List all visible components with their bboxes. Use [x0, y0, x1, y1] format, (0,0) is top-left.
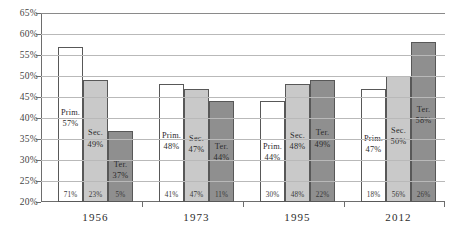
y-tick-mark — [36, 76, 41, 77]
gridline — [41, 181, 445, 182]
x-tick-mark — [344, 202, 345, 207]
bar-level-text: Prim. — [59, 107, 82, 118]
bar-value-label: Sec.50% — [387, 125, 410, 147]
y-tick-label: 45% — [2, 92, 38, 102]
bar-percent-text: 47% — [185, 144, 208, 155]
x-tick-mark — [444, 202, 445, 207]
y-tick-mark — [36, 118, 41, 119]
y-tick-label: 35% — [2, 134, 38, 144]
bar-share-label: 18% — [362, 191, 385, 199]
bar-share-label: 47% — [185, 191, 208, 199]
y-tick-mark — [36, 139, 41, 140]
bar-share-label: 71% — [59, 191, 82, 199]
bar-share-label: 22% — [311, 191, 334, 199]
y-tick-mark — [36, 202, 41, 203]
y-tick-label: 60% — [2, 29, 38, 39]
bar-level-text: Ter. — [210, 141, 233, 152]
bar-value-label: Prim.48% — [160, 130, 183, 152]
bar-share-label: 11% — [210, 191, 233, 199]
y-tick-mark — [36, 181, 41, 182]
bar-percent-text: 44% — [210, 152, 233, 163]
y-tick-mark — [36, 55, 41, 56]
x-group-label-1973: 1973 — [183, 211, 209, 223]
bar-1995-sec[interactable]: Sec.48%48% — [285, 84, 310, 202]
gridline — [41, 55, 445, 56]
y-tick-label: 50% — [2, 71, 38, 81]
x-group-label-2012: 2012 — [385, 211, 411, 223]
x-axis: 1956197319952012 — [41, 202, 445, 236]
x-group-label-1995: 1995 — [284, 211, 310, 223]
gridline — [41, 76, 445, 77]
y-tick-mark — [36, 160, 41, 161]
y-tick-mark — [36, 34, 41, 35]
y-tick-label: 20% — [2, 197, 38, 207]
bar-percent-text: 48% — [286, 141, 309, 152]
bar-level-text: Ter. — [412, 104, 435, 115]
bar-level-text: Prim. — [261, 141, 284, 152]
y-tick-label: 65% — [2, 8, 38, 18]
bar-share-label: 48% — [286, 191, 309, 199]
bar-1973-sec[interactable]: Sec.47%47% — [184, 89, 209, 202]
bar-level-text: Ter. — [311, 127, 334, 138]
gridline — [41, 13, 445, 14]
gridline — [41, 97, 445, 98]
bar-value-label: Ter.58% — [412, 104, 435, 126]
bar-value-label: Sec.48% — [286, 130, 309, 152]
bar-1956-sec[interactable]: Sec.49%23% — [83, 80, 108, 202]
bars-layer: Prim.57%71%Sec.49%23%Ter.37%5%Prim.48%41… — [41, 13, 445, 202]
bar-share-label: 41% — [160, 191, 183, 199]
bar-value-label: Prim.47% — [362, 133, 385, 155]
bar-share-label: 56% — [387, 191, 410, 199]
bar-level-text: Sec. — [387, 125, 410, 136]
bar-value-label: Sec.47% — [185, 133, 208, 155]
bar-percent-text: 50% — [387, 136, 410, 147]
bar-share-label: 5% — [109, 191, 132, 199]
bar-2012-ter[interactable]: Ter.58%26% — [411, 42, 436, 202]
bar-1973-prim[interactable]: Prim.48%41% — [159, 84, 184, 202]
gridline — [41, 118, 445, 119]
bar-share-label: 26% — [412, 191, 435, 199]
bar-chart: 65%60%55%50%45%40%35%30%25%20% Prim.57%7… — [0, 0, 453, 236]
x-tick-mark — [142, 202, 143, 207]
bar-percent-text: 48% — [160, 141, 183, 152]
bar-percent-text: 37% — [109, 170, 132, 181]
bar-level-text: Sec. — [84, 127, 107, 138]
x-tick-mark — [243, 202, 244, 207]
bar-value-label: Ter.37% — [109, 159, 132, 181]
bar-share-label: 23% — [84, 191, 107, 199]
y-axis: 65%60%55%50%45%40%35%30%25%20% — [0, 13, 38, 202]
bar-percent-text: 44% — [261, 152, 284, 163]
bar-percent-text: 57% — [59, 118, 82, 129]
bar-1973-ter[interactable]: Ter.44%11% — [209, 101, 234, 202]
gridline — [41, 160, 445, 161]
bar-2012-prim[interactable]: Prim.47%18% — [361, 89, 386, 202]
y-tick-label: 25% — [2, 176, 38, 186]
bar-1956-prim[interactable]: Prim.57%71% — [58, 47, 83, 202]
bar-percent-text: 58% — [412, 115, 435, 126]
plot-area: Prim.57%71%Sec.49%23%Ter.37%5%Prim.48%41… — [41, 13, 445, 202]
bar-1995-ter[interactable]: Ter.49%22% — [310, 80, 335, 202]
bar-percent-text: 49% — [84, 139, 107, 150]
bar-percent-text: 47% — [362, 144, 385, 155]
bar-1956-ter[interactable]: Ter.37%5% — [108, 131, 133, 202]
y-tick-label: 40% — [2, 113, 38, 123]
bar-percent-text: 49% — [311, 139, 334, 150]
gridline — [41, 34, 445, 35]
y-tick-label: 30% — [2, 155, 38, 165]
y-tick-mark — [36, 13, 41, 14]
bar-share-label: 30% — [261, 191, 284, 199]
y-tick-mark — [36, 97, 41, 98]
gridline — [41, 139, 445, 140]
x-group-label-1956: 1956 — [82, 211, 108, 223]
bar-1995-prim[interactable]: Prim.44%30% — [260, 101, 285, 202]
y-tick-label: 55% — [2, 50, 38, 60]
